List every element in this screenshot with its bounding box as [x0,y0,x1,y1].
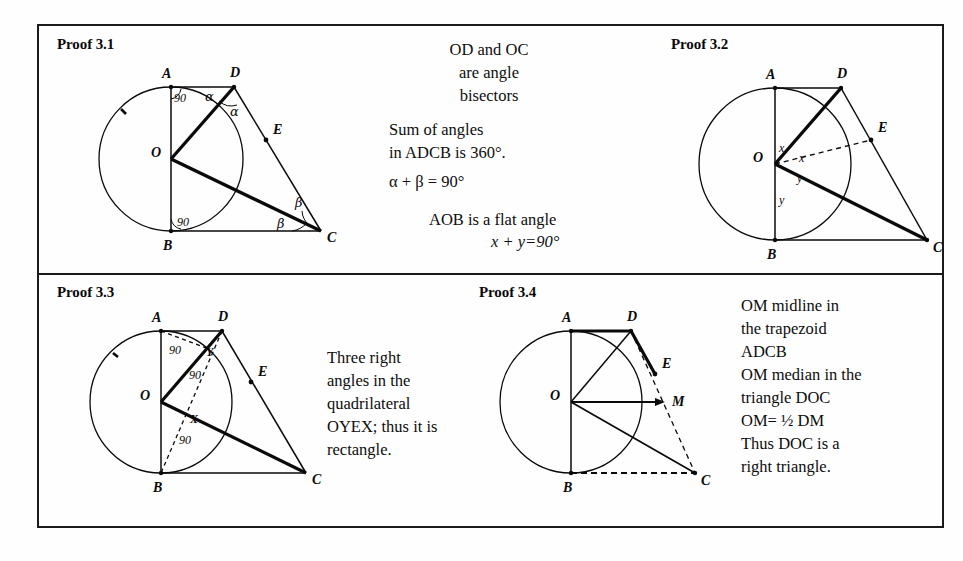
segment-OD-3-3 [161,331,222,402]
label-E-3-2: E [877,120,887,135]
figure-page: Proof 3.1 [0,0,963,561]
angle-label-beta-1-3-1: β [294,195,303,210]
point-B-3-1 [169,229,173,233]
panel-divider [39,273,942,275]
note-alpha-beta: α + β = 90° [389,170,579,193]
segment-OD-3-2 [775,88,841,164]
point-D-3-1 [232,85,236,89]
point-B-3-3 [159,471,163,475]
point-E-3-1 [264,138,269,143]
point-E-3-4 [653,372,658,377]
label-B-3-4: B [562,480,572,495]
label-D-3-3: D [217,309,228,324]
proof-3-3-diagram: A D E O B C Y X 90 90 90 [59,304,339,504]
proof-3-1-diagram: A D E O B C 90 90 α α β β [59,58,349,258]
angle-label-90-3-3-3: 90 [179,433,191,447]
angle-label-90-A-3-1: 90 [174,91,186,105]
point-A-3-2 [773,86,777,90]
angle-label-alpha-2-3-1: α [230,104,239,119]
point-A-3-3 [159,329,163,333]
arrow-head-OM-3-4 [655,398,665,406]
angle-label-90-2-3-3: 90 [189,368,201,382]
point-C-3-4 [693,471,697,475]
arc-tick-3-1 [121,109,126,114]
label-B-3-2: B [766,247,776,262]
label-D-3-2: D [836,66,847,81]
point-C-3-2 [925,238,929,242]
label-A-3-3: A [151,310,161,325]
label-A-3-2: A [765,67,775,82]
label-M-3-4: M [671,394,685,409]
arc-tick-3-3 [113,353,118,357]
label-C-3-3: C [312,472,322,487]
point-D-3-3 [220,329,224,333]
note-flat-angle: AOB is a flat angle [429,208,659,231]
label-D-3-4: D [626,309,637,324]
proof-3-4-title: Proof 3.4 [479,284,536,301]
segment-OC-3-4 [571,402,695,473]
segment-OE-dashed-3-2 [775,140,871,164]
point-A-3-4 [569,329,573,333]
angle-label-x-2-3-2: x [798,151,805,165]
label-E-3-4: E [661,356,671,371]
segment-DE-3-4 [631,331,655,374]
label-C-3-1: C [327,230,337,245]
point-E-3-2 [869,138,874,143]
label-O-3-1: O [151,145,161,160]
segment-OD-3-4 [571,331,631,402]
proof-3-2-title: Proof 3.2 [671,36,728,53]
label-B-3-3: B [152,480,162,495]
angle-label-beta-2-3-1: β [276,216,285,231]
label-O-3-3: O [140,388,150,403]
label-O-3-2: O [753,150,763,165]
proof-3-4-diagram: A D E O B C M [479,306,739,506]
angle-label-y-2-3-2: y [778,193,785,207]
label-D-3-1: D [229,65,240,80]
label-E-3-1: E [272,122,282,137]
note-sum-of-angles: Sum of angles in ADCB is 360°. [389,118,579,164]
label-O-3-4: O [550,388,560,403]
angle-label-90-1-3-3: 90 [169,343,181,357]
label-C-3-4: C [701,473,711,488]
figure-frame: Proof 3.1 [37,24,944,528]
note-bisectors: OD and OC are angle bisectors [409,38,569,107]
label-A-3-4: A [561,310,571,325]
angle-label-x-1-3-2: x [778,141,785,155]
label-A-3-1: A [161,66,171,81]
angle-label-y-1-3-2: y [796,171,803,185]
label-E-3-3: E [257,364,267,379]
proof-3-1-title: Proof 3.1 [57,36,114,53]
note-midline: OM midline in the trapezoid ADCB OM medi… [741,294,941,478]
label-B-3-1: B [162,238,172,253]
proof-3-3-title: Proof 3.3 [57,284,114,301]
angle-label-alpha-1-3-1: α [205,89,214,104]
point-D-3-2 [839,86,843,90]
note-x-plus-y: x + y=90° [491,230,671,253]
point-B-3-2 [773,238,777,242]
label-C-3-2: C [933,240,943,255]
proof-3-2-diagram: A D E O B C x x y y [669,58,959,263]
label-X-3-3: X [189,412,199,426]
angle-label-90-B-3-1: 90 [177,215,189,229]
point-D-3-4 [629,329,633,333]
point-E-3-3 [249,380,254,385]
point-A-3-1 [169,85,173,89]
point-B-3-4 [569,471,573,475]
